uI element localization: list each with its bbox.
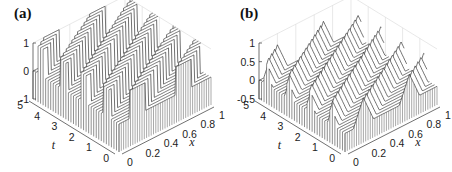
- panel-label-b: (b): [240, 5, 258, 22]
- panel-label-a: (a): [14, 5, 32, 22]
- x-tick-label: 0.4: [164, 137, 179, 149]
- z-tick-label: 0: [23, 65, 29, 77]
- t-tick-label: 4: [34, 110, 40, 122]
- x-tick-label: 0.2: [371, 147, 386, 159]
- t-tick-label: 3: [52, 120, 58, 132]
- t-tick-label: 5: [243, 99, 249, 111]
- waterfall-plot-a: -10101234500.20.40.60.81tx: [0, 0, 226, 172]
- panel-a: -10101234500.20.40.60.81tx (a): [0, 0, 226, 172]
- x-axis-label: x: [414, 135, 421, 149]
- z-tick-label: 0.5: [240, 56, 255, 68]
- x-tick-label: 1: [219, 109, 225, 121]
- t-tick-label: 0: [329, 152, 335, 164]
- waterfall-plot-b: -0.500.5101234500.20.40.60.81tx: [226, 0, 452, 172]
- t-tick-label: 2: [69, 131, 75, 143]
- t-tick-label: 2: [295, 131, 301, 143]
- plot-area: -10101234500.20.40.60.81tx: [17, 0, 225, 168]
- x-tick-label: 0.2: [145, 147, 160, 159]
- t-tick-label: 4: [260, 110, 266, 122]
- x-tick-label: 0.8: [427, 118, 442, 130]
- x-tick-label: 0.8: [201, 118, 216, 130]
- x-axis-label: x: [188, 135, 195, 149]
- z-tick-label: 1: [249, 37, 255, 49]
- z-tick-label: 0: [249, 74, 255, 86]
- panel-b: -0.500.5101234500.20.40.60.81tx (b): [226, 0, 452, 172]
- t-tick-label: 1: [86, 141, 92, 153]
- t-tick-label: 0: [103, 152, 109, 164]
- t-tick-label: 5: [17, 99, 23, 111]
- t-tick-label: 3: [278, 120, 284, 132]
- x-tick-label: 0: [127, 156, 133, 168]
- x-tick-label: 0.4: [390, 137, 405, 149]
- z-tick-label: 1: [23, 37, 29, 49]
- t-tick-label: 1: [312, 141, 318, 153]
- plot-area: -0.500.5101234500.20.40.60.81tx: [237, 0, 451, 168]
- x-tick-label: 1: [445, 109, 451, 121]
- t-axis-label: t: [52, 138, 56, 152]
- x-tick-label: 0: [353, 156, 359, 168]
- t-axis-label: t: [278, 138, 282, 152]
